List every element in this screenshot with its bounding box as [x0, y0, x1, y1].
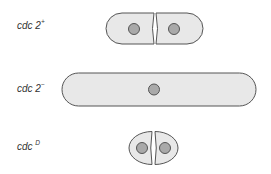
nucleus-central — [149, 84, 160, 95]
nucleus-left-small — [137, 143, 148, 154]
cell-elongated-mutant — [62, 73, 256, 106]
nucleus-left — [129, 24, 140, 35]
cell-pair-dominant — [129, 132, 178, 165]
cell-pair-wild-type — [106, 13, 203, 44]
cell-diagram — [0, 0, 271, 174]
nucleus-right-small — [160, 143, 171, 154]
nucleus-right — [169, 24, 180, 35]
